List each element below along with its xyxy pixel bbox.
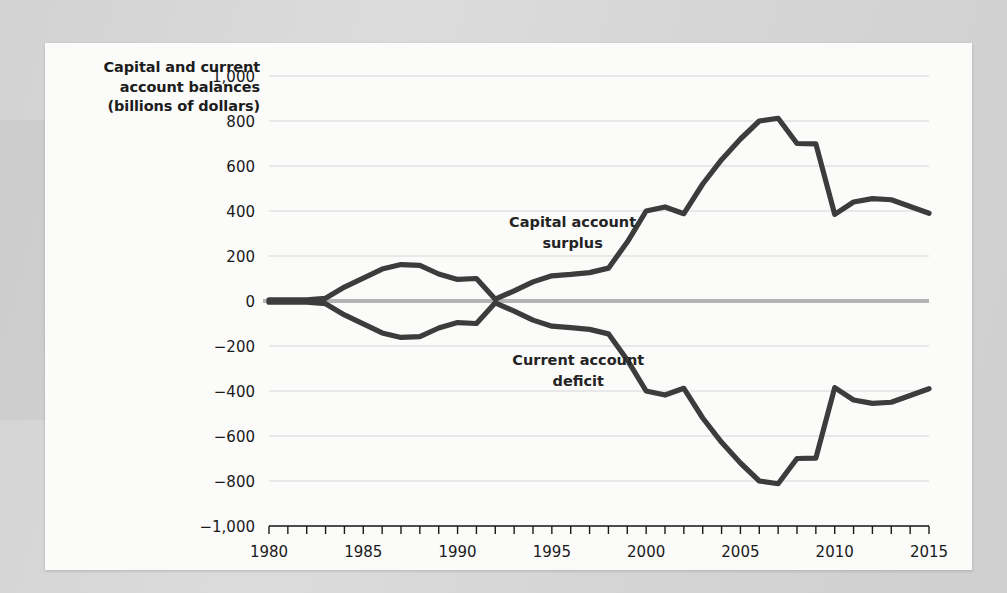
x-axis-tick-label: 2010	[816, 543, 854, 561]
series-line-capital-account-surplus	[269, 118, 929, 300]
x-axis-tick-label: 1990	[438, 543, 476, 561]
y-axis-tick-label: 600	[226, 158, 255, 176]
y-axis-tick-label: 800	[226, 113, 255, 131]
x-axis-tick-label: 1995	[533, 543, 571, 561]
annotation-capital-account-surplus: Capital account	[509, 214, 636, 230]
annotation-current-account-deficit-line2: deficit	[553, 373, 605, 389]
plot-area: 1,0008006004002000−200−400−600−800−1,000…	[45, 43, 972, 570]
y-axis-tick-label: −800	[214, 473, 255, 491]
x-axis-tick-label: 2015	[910, 543, 948, 561]
y-axis-tick-label: 400	[226, 203, 255, 221]
x-axis-tick-label: 1985	[344, 543, 382, 561]
figure-panel: Capital and current account balances (bi…	[45, 43, 972, 570]
x-axis-tick-label: 1980	[250, 543, 288, 561]
y-axis-tick-label: −600	[214, 428, 255, 446]
line-chart: 1,0008006004002000−200−400−600−800−1,000…	[45, 43, 972, 570]
y-axis-tick-label: −400	[214, 383, 255, 401]
y-axis-tick-label: −200	[214, 338, 255, 356]
x-axis-tick-label: 2000	[627, 543, 665, 561]
y-axis-tick-label: 1,000	[212, 68, 255, 86]
y-axis-tick-label: 0	[245, 293, 255, 311]
series-line-current-account-deficit	[269, 302, 929, 484]
y-axis-tick-label: −1,000	[199, 518, 255, 536]
annotation-current-account-deficit: Current account	[512, 352, 644, 368]
x-axis-tick-label: 2005	[721, 543, 759, 561]
y-axis-tick-label: 200	[226, 248, 255, 266]
annotation-capital-account-surplus-line2: surplus	[542, 235, 602, 251]
